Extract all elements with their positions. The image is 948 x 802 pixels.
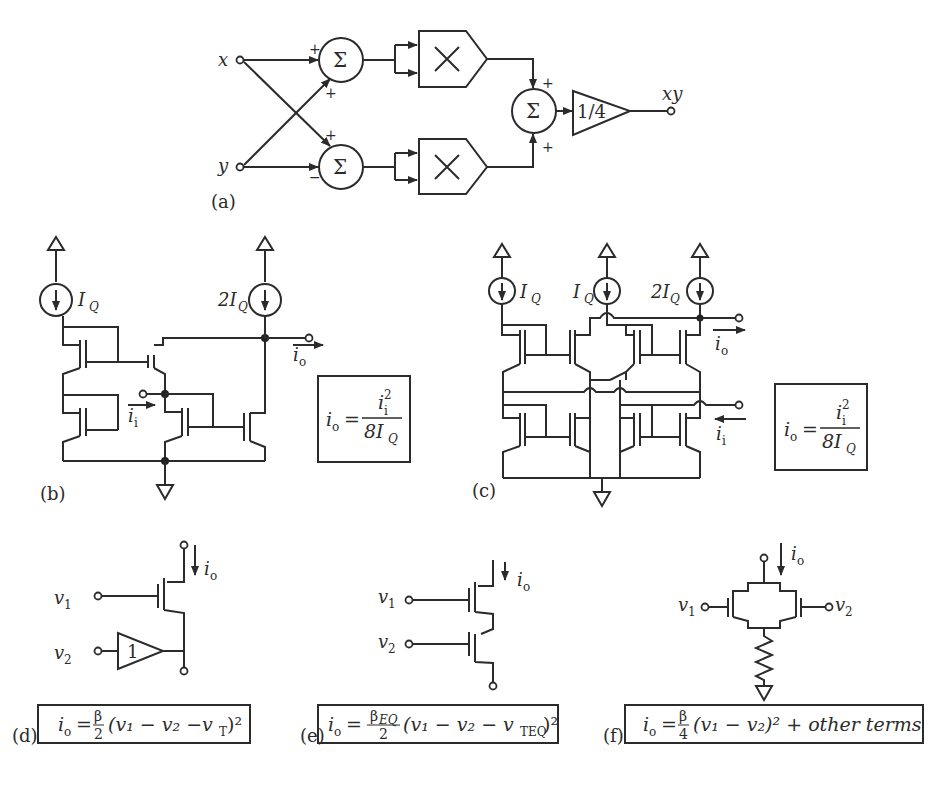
sup: 2 (842, 398, 850, 412)
panel-e-circuit: v 1 v 2 i o (e) i o = β EQ 2 (v₁ − v₂ − … (300, 560, 558, 746)
buffer-gain: 1 (127, 641, 138, 662)
iq-label: I (77, 289, 86, 310)
sum-final-symbol: Σ (526, 99, 540, 123)
v2-terminal (826, 604, 833, 611)
sub: i (722, 434, 726, 448)
eq-sign: = (802, 418, 818, 440)
sub: i (134, 416, 138, 430)
sub: o (790, 430, 797, 444)
sub: 1 (64, 598, 72, 612)
ii-label: i (716, 423, 722, 444)
sub: Q (238, 300, 248, 314)
sub: i (384, 404, 388, 418)
vdd-icon (48, 237, 64, 250)
v2-label: v (835, 594, 845, 615)
v2-terminal (406, 641, 413, 648)
sub: 2 (845, 605, 853, 619)
panel-d-circuit: v 1 i o 1 v 2 (d) i o = β 2 (v₁ − v₂ −v … (12, 542, 250, 747)
eq-sign: = (344, 408, 360, 430)
unity-buffer (118, 633, 163, 669)
sub: o (797, 554, 804, 568)
eq-body: (v₁ − v₂ −v (108, 713, 213, 735)
v1-label: v (678, 594, 688, 615)
panel-f-circuit: v 1 v 2 i o (f) i o = β 4 (v₁ − v₂)² + o… (603, 543, 923, 746)
sub: o (721, 344, 728, 358)
panel-b-squarer-circuit: I Q 2I Q i i i o (b) i (40, 237, 410, 504)
sub: 1 (388, 597, 396, 611)
vdd-icon (692, 244, 708, 257)
eq-den: 8I (364, 420, 384, 442)
frac-num: β (370, 708, 378, 724)
sub: Q (388, 432, 398, 446)
sub: Q (531, 292, 541, 306)
eq-sign: = (76, 713, 92, 735)
io-label: i (791, 543, 797, 564)
frac-den: 4 (679, 726, 688, 742)
frac-den: 2 (379, 726, 388, 742)
v1-label: v (378, 586, 388, 607)
ground-icon (594, 492, 610, 506)
v1-label: v (54, 587, 64, 608)
panel-d-label: (d) (12, 725, 38, 746)
io-label: i (204, 558, 210, 579)
sub: Q (89, 300, 99, 314)
2iq-label: 2I (217, 289, 237, 310)
eq-body: (v₁ − v₂)² + other terms (693, 713, 922, 735)
output-terminal (736, 315, 743, 322)
sub: o (64, 725, 71, 739)
frac-den: 2 (94, 726, 103, 742)
sign: + (325, 85, 337, 101)
ground-icon (756, 686, 772, 700)
resistor-icon (756, 628, 772, 686)
panel-c-label: (c) (472, 480, 496, 501)
sub: o (332, 420, 339, 434)
sum-top-symbol: Σ (333, 48, 347, 72)
v1-terminal (406, 597, 413, 604)
sub: o (649, 725, 656, 739)
vdd-icon (257, 237, 273, 250)
sub: o (523, 580, 530, 594)
sub: 2 (388, 642, 396, 656)
sub: o (210, 569, 217, 583)
drain-terminal (181, 542, 188, 549)
ground-icon (157, 485, 173, 499)
circuit-figure: x y Σ Σ + + + − Σ (0, 0, 948, 802)
panel-e-label: (e) (300, 725, 325, 746)
eq-close: )² (227, 713, 242, 735)
iq-label: I (572, 281, 581, 302)
iq-label: I (519, 281, 528, 302)
io-label: i (715, 333, 721, 354)
io-label: i (517, 569, 523, 590)
sub: i (842, 414, 846, 428)
io-label: i (293, 344, 299, 365)
input-x-terminal (237, 57, 244, 64)
eq-sign: = (661, 713, 677, 735)
panel-f-label: (f) (603, 725, 624, 746)
output-xy-label: xy (662, 83, 683, 104)
multiplier-top (419, 31, 487, 87)
panel-a-label: (a) (211, 191, 236, 212)
sub: Q (584, 292, 594, 306)
sub: 1 (688, 605, 696, 619)
vdd-icon (599, 244, 615, 257)
frac-num: β (679, 708, 687, 724)
ii-label: i (128, 405, 134, 426)
vdd-icon (494, 244, 510, 257)
sub: T (219, 725, 227, 739)
input-y-label: y (217, 155, 229, 176)
eq-den: 8I (822, 430, 842, 452)
output-terminal (668, 108, 675, 115)
eq-sign: = (346, 713, 362, 735)
panel-c-squarer-circuit: I Q I Q 2I Q i o i i (472, 244, 867, 506)
sub: 2 (64, 653, 72, 667)
eq-close: )² (543, 713, 558, 735)
drain-terminal (761, 555, 768, 562)
source-terminal (181, 668, 188, 675)
sign: − (309, 169, 321, 185)
input-y-terminal (237, 164, 244, 171)
sub: o (334, 725, 341, 739)
v1-terminal (702, 604, 709, 611)
v1-terminal (95, 593, 102, 600)
source-terminal (490, 683, 497, 690)
gain-label: 1/4 (577, 101, 606, 122)
